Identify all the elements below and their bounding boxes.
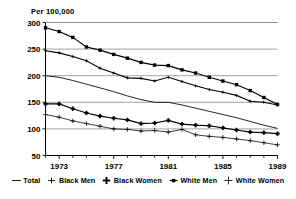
line-marker-icon (12, 176, 21, 185)
y-axis-tick-label: 300 (27, 19, 41, 28)
x-axis-tick-label: 1985 (214, 162, 232, 171)
cross-plus-marker-icon (224, 176, 233, 185)
y-axis-tick-label: 150 (27, 98, 41, 107)
legend-item-total[interactable]: Total (12, 176, 41, 185)
y-axis-tick-label: 50 (32, 152, 41, 161)
legend-label-white-men: White Men (180, 176, 217, 185)
y-axis-tick-label: 250 (27, 45, 41, 54)
mortality-rate-line-chart: Per 100,000 50100150200250300 1973197719… (0, 0, 296, 199)
series-black-women (43, 102, 279, 136)
y-axis-ticks-group: 50100150200250300 (27, 19, 45, 161)
chart-plot-area: 50100150200250300 19731977198119851989 (0, 0, 296, 199)
legend-label-black-women: Black Women (114, 176, 162, 185)
x-axis-tick-label: 1977 (105, 162, 123, 171)
bold-plus-marker-icon (102, 176, 111, 185)
legend-item-black-women[interactable]: Black Women (102, 176, 162, 185)
x-axis-ticks-group: 19731977198119851989 (46, 156, 287, 171)
series-black-men (44, 49, 279, 106)
chart-legend: Total Black Men Black Women (0, 176, 296, 185)
y-axis-tick-label: 200 (27, 72, 41, 81)
legend-item-white-men[interactable]: White Men (169, 176, 217, 185)
legend-label-white-women: White Women (236, 176, 284, 185)
x-axis-tick-label: 1981 (159, 162, 177, 171)
x-axis-tick-label: 1973 (50, 162, 68, 171)
legend-label-total: Total (23, 176, 40, 185)
gridlines-group (46, 23, 278, 129)
legend-item-black-men[interactable]: Black Men (47, 176, 95, 185)
series-white-men (44, 26, 279, 106)
legend-item-white-women[interactable]: White Women (224, 176, 284, 185)
y-axis-tick-label: 100 (27, 125, 41, 134)
series-white-women (43, 112, 280, 147)
filled-square-marker-icon (169, 176, 178, 185)
x-axis-tick-label: 1989 (269, 162, 287, 171)
thin-plus-marker-icon (47, 176, 56, 185)
legend-label-black-men: Black Men (59, 176, 95, 185)
